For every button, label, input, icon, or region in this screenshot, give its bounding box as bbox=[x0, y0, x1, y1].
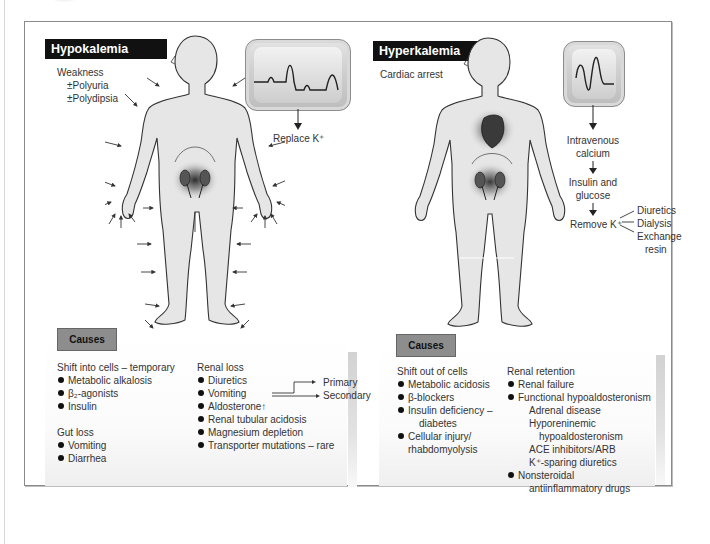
ecg-monitor-hypokalemia bbox=[245, 39, 351, 111]
causes-shift-out-of-cells: Shift out of cells Metabolic acidosis β-… bbox=[397, 365, 493, 456]
remove-option-dialysis: Dialysis bbox=[637, 217, 671, 230]
treatment-remove-potassium: Remove K⁺ bbox=[570, 218, 622, 231]
shade-bar bbox=[348, 352, 357, 487]
cause-item-continuation: rhabdomyolysis bbox=[397, 443, 493, 456]
replace-potassium-label: Replace K⁺ bbox=[273, 132, 324, 145]
group-heading: Shift into cells – temporary bbox=[57, 361, 175, 374]
cause-item: Cellular injury/ bbox=[397, 430, 493, 443]
treatment-iv-calcium-line2: calcium bbox=[563, 147, 623, 160]
branch-lines-icon bbox=[620, 208, 636, 234]
shade-bar bbox=[656, 355, 665, 485]
cause-item: β-blockers bbox=[397, 391, 493, 404]
symptom-weakness: Weakness bbox=[57, 66, 104, 79]
cause-item: Renal tubular acidosis bbox=[197, 413, 334, 426]
causes-tag-hyperkalemia: Causes bbox=[396, 334, 456, 357]
causes-shift-into-cells: Shift into cells – temporary Metabolic a… bbox=[57, 361, 175, 465]
cause-subitem: Adrenal disease bbox=[507, 404, 651, 417]
cause-subitem: K⁺-sparing diuretics bbox=[507, 456, 651, 469]
treatment-insulin-glucose-line1: Insulin and bbox=[561, 176, 625, 189]
cause-item: Insulin bbox=[57, 400, 175, 413]
arrow-down-icon bbox=[588, 105, 598, 131]
cause-item: Magnesium depletion bbox=[197, 426, 334, 439]
remove-option-exchange-resin-line2: resin bbox=[645, 243, 667, 256]
group-heading: Shift out of cells bbox=[397, 365, 493, 378]
cause-item-continuation: diabetes bbox=[397, 417, 493, 430]
cause-item: Metabolic acidosis bbox=[397, 378, 493, 391]
human-body-figure-hyperkalemia bbox=[410, 36, 580, 332]
arrow-down-icon bbox=[588, 203, 598, 217]
ecg-trace-sine-wave-icon bbox=[564, 42, 624, 106]
cause-item: β₂-agonists bbox=[57, 387, 175, 400]
group-heading: Renal loss bbox=[197, 361, 334, 374]
cause-item: Aldosterone↑ bbox=[197, 400, 334, 413]
treatment-iv-calcium-line1: Intravenous bbox=[563, 134, 623, 147]
cause-subitem-continuation: hypoaldosteronism bbox=[507, 430, 651, 443]
remove-option-diuretics: Diuretics bbox=[637, 204, 676, 217]
aldosterone-primary-label: Primary bbox=[323, 376, 357, 389]
causes-renal-retention: Renal retention Renal failure Functional… bbox=[507, 365, 651, 495]
cause-item: Insulin deficiency – bbox=[397, 404, 493, 417]
ecg-trace-u-wave-icon bbox=[246, 40, 350, 110]
top-decoration bbox=[44, 0, 84, 2]
cause-item: Transporter mutations – rare bbox=[197, 439, 334, 452]
cause-item: Functional hypoaldosteronism bbox=[507, 391, 651, 404]
causes-renal-loss: Renal loss Diuretics Vomiting Aldosteron… bbox=[197, 361, 334, 452]
symptom-polyuria: ±Polyuria bbox=[67, 79, 109, 92]
arrow-down-icon bbox=[588, 161, 598, 175]
group-heading: Gut loss bbox=[57, 426, 175, 439]
figure-frame: Hypokalemia Weakness ±Polyuria ±Polydips… bbox=[24, 21, 672, 486]
aldosterone-secondary-label: Secondary bbox=[323, 389, 371, 402]
cause-item: Vomiting bbox=[57, 439, 175, 452]
cause-item: Metabolic alkalosis bbox=[57, 374, 175, 387]
group-heading: Renal retention bbox=[507, 365, 651, 378]
arrow-down-icon bbox=[293, 109, 303, 131]
cause-item: Nonsteroidal bbox=[507, 469, 651, 482]
cause-subitem: Hyporeninemic bbox=[507, 417, 651, 430]
cause-item: Renal failure bbox=[507, 378, 651, 391]
ecg-monitor-hyperkalemia bbox=[563, 41, 625, 107]
cause-item: Diarrhea bbox=[57, 452, 175, 465]
cause-subitem: ACE inhibitors/ARB bbox=[507, 443, 651, 456]
treatment-insulin-glucose-line2: glucose bbox=[561, 189, 625, 202]
page-margin-rule bbox=[4, 0, 5, 544]
cause-item-continuation: antiinflammatory drugs bbox=[507, 482, 651, 495]
causes-tag-hypokalemia: Causes bbox=[57, 328, 117, 351]
remove-option-exchange-resin-line1: Exchange bbox=[637, 230, 681, 243]
